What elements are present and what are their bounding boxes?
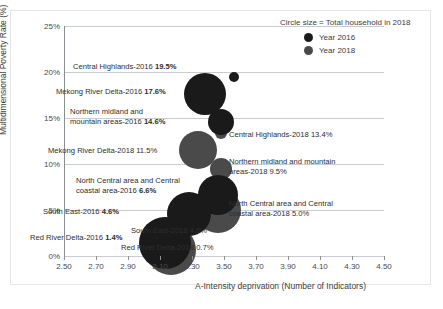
x-tick-mark [352,256,353,260]
point-label-north-central-2016: North Central area and Central coastal a… [76,176,180,196]
legend-marker-circle-icon [304,46,313,55]
point-label-northern-midland-2016: Northern midland and mountain areas-2016… [70,107,165,127]
x-tick-mark [128,256,129,260]
point-label-red-river-delta-2018: Red River Delta-2018 0.7% [121,243,213,253]
y-tick-label: 10% [44,160,60,169]
point-label-red-river-delta-2016: Red River Delta-2016 1.4% [30,233,122,243]
x-tick-label: 4.50 [376,262,392,271]
y-axis-title: Multidimensional Poverty Rate (%) [0,0,8,135]
point-label-mekong-river-delta-2016: Mekong River Delta-2016 17.6% [56,87,166,97]
x-axis-ticks: 2.502.702.903.103.303.503.703.904.104.30… [64,256,394,278]
point-label-south-east-2018: South East-2018 4.6% [131,226,207,236]
y-tick-label: 0% [48,252,60,261]
x-tick-label: 2.90 [120,262,136,271]
x-tick-mark [192,256,193,260]
x-tick-label: 3.30 [184,262,200,271]
x-tick-label: 4.30 [344,262,360,271]
x-tick-label: 4.10 [312,262,328,271]
x-axis-title: A-Intensity deprivation (Number of Indic… [195,281,366,291]
legend-marker-circle-icon [304,33,313,42]
x-tick-label: 3.50 [216,262,232,271]
x-tick-label: 3.90 [280,262,296,271]
x-tick-mark [224,256,225,260]
legend-entry-label: Year 2016 [319,33,355,42]
x-tick-mark [288,256,289,260]
x-tick-label: 2.50 [56,262,72,271]
legend-entry-label: Year 2018 [319,46,355,55]
x-tick-mark [160,256,161,260]
legend-entries: Year 2016Year 2018 [280,33,440,55]
x-tick-mark [320,256,321,260]
bubble-central-highlands-2016[interactable] [229,72,239,82]
y-axis-ticks: 25%20%15%10%5%0% [28,26,60,256]
y-tick-label: 25% [44,22,60,31]
point-label-mekong-river-delta-2018: Mekong River Delta-2018 11.5% [48,146,157,156]
point-label-central-highlands-2016: Central Highlands-2016 19.5% [73,62,176,72]
legend: Circle size = Total household in 2018 Ye… [280,18,440,59]
point-label-south-east-2016: South East-2016 4.6% [43,207,119,217]
y-axis-line [64,26,65,256]
legend-title: Circle size = Total household in 2018 [280,18,440,27]
x-tick-mark [256,256,257,260]
x-tick-label: 3.70 [248,262,264,271]
point-label-northern-midland-2018: Northern midland and mountain areas-2018… [229,157,335,177]
point-label-central-highlands-2018: Central Highlands-2018 13.4% [229,130,332,140]
legend-entry[interactable]: Year 2018 [304,46,440,55]
x-tick-mark [96,256,97,260]
chart-screenshot: Multidimensional Poverty Rate (%) 25%20%… [0,0,443,309]
x-tick-label: 3.10 [152,262,168,271]
point-label-north-central-2018: North Central area and Central coastal a… [229,199,333,219]
y-tick-label: 15% [44,114,60,123]
x-tick-label: 2.70 [88,262,104,271]
plot-area [64,26,384,256]
x-tick-mark [384,256,385,260]
x-tick-mark [64,256,65,260]
gridline-y-20 [64,72,384,73]
legend-entry[interactable]: Year 2016 [304,33,440,42]
y-tick-label: 20% [44,68,60,77]
